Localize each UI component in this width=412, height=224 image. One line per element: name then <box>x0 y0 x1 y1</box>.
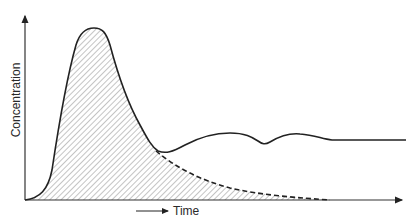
x-axis-label: Time <box>173 204 199 218</box>
y-axis-label: Concentration <box>9 63 23 138</box>
area-under-curve <box>25 28 330 200</box>
concentration-time-diagram <box>0 0 412 224</box>
